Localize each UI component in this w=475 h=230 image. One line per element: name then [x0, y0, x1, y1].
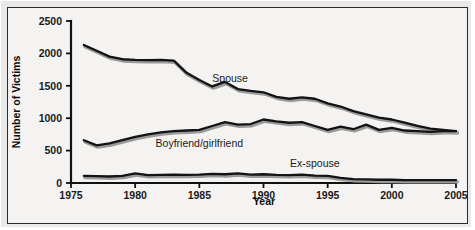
- series-label: Spouse: [212, 72, 248, 84]
- y-tick-label: 2500: [39, 15, 63, 27]
- y-tick-label: 500: [44, 144, 62, 156]
- y-tick-label: 1500: [39, 80, 63, 92]
- series-annotation-labels: SpouseBoyfriend/girlfriendEx-spouse: [156, 72, 340, 169]
- y-tick-label: 0: [56, 177, 62, 189]
- line-chart: 05001000150020002500 1975198019851990199…: [0, 0, 475, 230]
- series-label: Boyfriend/girlfriend: [156, 137, 244, 149]
- x-tick-label: 1975: [59, 189, 83, 201]
- series-line: [84, 45, 456, 131]
- y-tick-label: 2000: [39, 47, 63, 59]
- y-axis-ticks: 05001000150020002500: [39, 15, 71, 189]
- y-tick-label: 1000: [39, 112, 63, 124]
- x-tick-label: 1980: [123, 189, 147, 201]
- x-tick-label: 1995: [316, 189, 340, 201]
- y-axis-title: Number of Victims: [10, 56, 22, 149]
- series-label: Ex-spouse: [290, 157, 340, 169]
- x-axis-title: Year: [253, 195, 275, 207]
- chart-figure: 05001000150020002500 1975198019851990199…: [0, 0, 475, 230]
- x-tick-label: 2005: [444, 189, 468, 201]
- data-series-group: [84, 45, 457, 182]
- x-tick-label: 2000: [380, 189, 404, 201]
- x-tick-label: 1985: [188, 189, 212, 201]
